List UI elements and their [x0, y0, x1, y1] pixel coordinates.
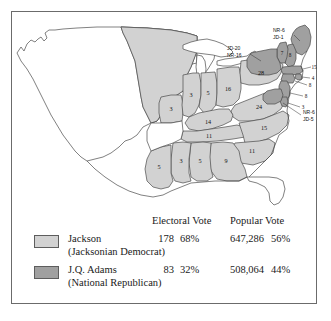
vote-south-carolina: 11	[249, 147, 255, 154]
legend-header-electoral: Electoral Vote	[152, 215, 211, 226]
vote-north-carolina: 15	[261, 124, 267, 131]
legend-popular-pct-adams: 44%	[271, 264, 290, 275]
legend-header-popular: Popular Vote	[230, 215, 284, 226]
vote-tennessee: 11	[206, 132, 212, 139]
vote-rhode-island: 4	[312, 75, 315, 81]
vote-new-jersey: 8	[305, 93, 308, 99]
callout-maine-line1: NR-6	[273, 27, 285, 33]
state-rhode-island	[295, 74, 302, 80]
callout-newyork-line2: NR-16	[227, 52, 242, 58]
vote-missouri: 3	[169, 105, 172, 112]
legend-electoral-votes-jackson: 178	[142, 233, 174, 244]
legend-swatch-jackson	[34, 235, 59, 248]
vote-virginia: 24	[256, 103, 262, 110]
legend-electoral-votes-adams: 83	[142, 264, 174, 275]
state-maryland	[263, 89, 283, 104]
legend-popular-votes-adams: 508,064	[211, 264, 264, 275]
florida-territory	[247, 177, 285, 205]
legend: Electoral Vote Popular Vote Jackson (Jac…	[11, 211, 317, 304]
legend-candidate-adams: J.Q. Adams	[68, 264, 117, 275]
callout-maryland-line1: NR-6	[303, 109, 315, 115]
election-map-figure: 3 3 5 16 28 14 24 11 15 11 9 5 3 5 7 8 1…	[0, 0, 331, 321]
vote-alabama: 5	[198, 157, 201, 164]
vote-connecticut: 8	[309, 82, 312, 88]
callout-maryland-line2: JD-5	[303, 116, 314, 122]
vote-ohio: 16	[225, 85, 231, 92]
vote-louisiana: 5	[157, 163, 160, 170]
vote-mississippi: 3	[179, 157, 182, 164]
legend-candidate-jackson: Jackson	[68, 233, 101, 244]
callout-maine-line2: JD-1	[273, 34, 284, 40]
vote-illinois: 3	[189, 91, 192, 98]
us-map: 3 3 5 16 28 14 24 11 15 11 9 5 3 5 7 8 1…	[11, 11, 317, 211]
legend-row-adams: J.Q. Adams (National Republican) 83 32% …	[11, 265, 317, 293]
legend-electoral-pct-adams: 32%	[180, 264, 199, 275]
legend-popular-pct-jackson: 56%	[271, 233, 290, 244]
legend-party-adams: (National Republican)	[68, 276, 162, 289]
legend-row-jackson: Jackson (Jacksonian Democrat) 178 68% 64…	[11, 234, 317, 262]
vote-georgia: 9	[224, 157, 227, 164]
legend-party-jackson: (Jacksonian Democrat)	[68, 245, 165, 258]
vote-new-hampshire: 8	[289, 52, 292, 58]
vote-kentucky: 14	[205, 118, 211, 125]
vote-indiana: 5	[206, 89, 209, 96]
vote-vermont: 7	[281, 50, 284, 56]
legend-popular-votes-jackson: 647,286	[211, 233, 264, 244]
legend-swatch-adams	[34, 266, 59, 279]
vote-pennsylvania: 28	[258, 69, 264, 76]
callout-newyork-line1: JD-20	[227, 45, 241, 51]
map-svg: 3 3 5 16 28 14 24 11 15 11 9 5 3 5 7 8 1…	[11, 11, 317, 211]
vote-massachusetts: 15	[311, 64, 317, 70]
legend-electoral-pct-jackson: 68%	[180, 233, 199, 244]
